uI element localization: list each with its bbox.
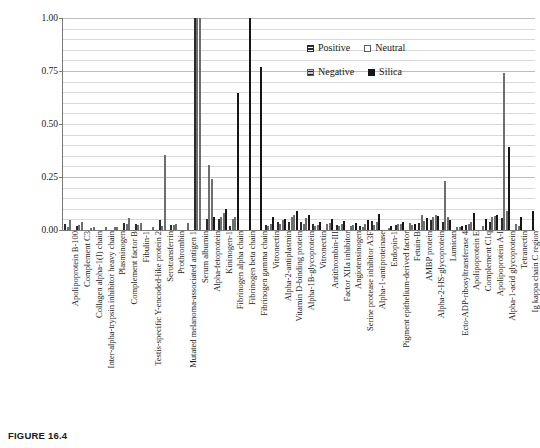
x-axis-category-label: Tetranectin (520, 231, 529, 269)
bar-group (418, 18, 427, 230)
bar-group (88, 18, 97, 230)
bar-group (277, 18, 286, 230)
x-axis-category-label: Vitamin D-binding protein (295, 231, 304, 321)
plot-area (62, 18, 535, 230)
y-axis-tick-label: 1.00 (24, 13, 58, 23)
bar-negative (164, 155, 166, 230)
bar-silica (496, 215, 498, 230)
bar-silica (426, 218, 428, 230)
bar-group (241, 18, 250, 230)
bar-silica (367, 220, 369, 230)
x-axis-category-labels: Apolipoprotein B-100Complement C3Collage… (62, 231, 534, 411)
bar-group (477, 18, 486, 230)
legend-label-negative: Negative (318, 66, 354, 78)
legend-entry-negative: Negative (307, 66, 354, 78)
bar-silica (308, 215, 310, 230)
bar-silica (331, 219, 333, 230)
silica-swatch-icon (368, 69, 375, 76)
bar-silica (402, 222, 404, 230)
x-axis-category-label: Fibrinogen alpha chain (236, 231, 245, 309)
figure-16-4: Relative amount 0.000.250.500.751.00 Pos… (0, 0, 540, 448)
gridline-major (63, 18, 535, 19)
gridline-minor (63, 92, 535, 93)
bar-group (489, 18, 498, 230)
legend-row: PositiveNeutral (307, 42, 419, 54)
x-axis-category-label: Lumican (449, 231, 458, 261)
x-axis-category-label: Antithrombin-III (331, 231, 340, 288)
negative-swatch-icon (307, 69, 314, 76)
x-axis-category-label: Alpha-fetoprotein (213, 231, 222, 292)
gridline-minor (63, 219, 535, 220)
x-axis-category-label: Vitronectin (319, 231, 328, 269)
bar-group (170, 18, 179, 230)
gridline-minor (63, 188, 535, 189)
legend-entry-neutral: Neutral (364, 42, 405, 54)
legend-entry-silica: Silica (368, 66, 402, 78)
bar-negative (128, 218, 130, 230)
x-axis-category-label: Serotransferrin (166, 231, 175, 282)
bar-group (123, 18, 132, 230)
bar-group (229, 18, 238, 230)
gridline-minor (63, 50, 535, 51)
bar-group (64, 18, 73, 230)
y-axis-tick-mark (59, 177, 63, 178)
x-axis-category-label: Kininogen-1 (225, 231, 234, 274)
bar-group (206, 18, 215, 230)
x-axis-category-label: Angiotensinogen (354, 231, 363, 289)
x-axis-category-label: Complement factor B (130, 231, 139, 305)
bar-group (513, 18, 522, 230)
y-axis-tick-label: 0.00 (24, 225, 58, 235)
bar-group (194, 18, 203, 230)
bar-group (253, 18, 262, 230)
x-axis-category-label: Fetuin-B (413, 231, 422, 261)
gridline-minor (63, 166, 535, 167)
bar-silica (284, 219, 286, 230)
bar-group (182, 18, 191, 230)
bar-neutral (503, 73, 505, 230)
gridline-minor (63, 103, 535, 104)
bar-group (159, 18, 168, 230)
bar-negative (69, 220, 71, 230)
bar-silica (343, 221, 345, 230)
x-axis-category-label: Ig kappa chain C region (531, 231, 540, 312)
legend-label-silica: Silica (379, 66, 402, 78)
y-axis-tick-labels: 0.000.250.500.751.00 (20, 0, 58, 448)
x-axis-category-label: Alpha-2-antiplasmin (284, 231, 293, 301)
bar-silica (319, 222, 321, 230)
legend-label-neutral: Neutral (375, 42, 405, 54)
gridline-minor (63, 113, 535, 114)
x-axis-category-label: Apolipoprotein B-100 (71, 231, 80, 306)
bar-silica (272, 217, 274, 230)
x-axis-category-label: Testis-specific Y-encoded-like protein 2 (154, 231, 163, 366)
neutral-swatch-icon (364, 45, 371, 52)
x-axis-category-label: Alpha-1-acid glycoprotein (508, 231, 517, 321)
x-axis-category-label: Serine protease inhibitor A3F (366, 231, 375, 331)
bar-group (465, 18, 474, 230)
x-axis-category-label: Endopin-1 (390, 231, 399, 267)
bar-silica (355, 223, 357, 230)
bar-group (430, 18, 439, 230)
x-axis-category-label: Ecto-ADP-ribosyltransferase 4 (461, 231, 470, 336)
x-axis-category-label: Complement C1q (484, 231, 493, 291)
legend-row: NegativeSilica (307, 66, 419, 78)
bar-silica (296, 211, 298, 230)
bar-group (265, 18, 274, 230)
gridline-minor (63, 156, 535, 157)
gridline-minor (63, 145, 535, 146)
bar-group (135, 18, 144, 230)
bar-group (442, 18, 451, 230)
x-axis-category-label: Alpha-1B-glycoprotein (307, 231, 316, 310)
positive-swatch-icon (307, 45, 314, 52)
bar-negative (81, 222, 83, 230)
bar-silica (249, 18, 251, 230)
y-axis-tick-label: 0.75 (24, 66, 58, 76)
x-axis-category-label: Alpha-2-HS-glycoprotein (437, 231, 446, 318)
x-axis-category-label: Apolipoprotein A-I (496, 231, 505, 296)
x-axis-category-label: Factor XIIa inhibitor (343, 231, 352, 302)
x-axis-category-label: Alpha-1-antiproteinase (378, 231, 387, 309)
gridline-minor (63, 39, 535, 40)
bar-negative (187, 223, 189, 230)
gridline-minor (63, 198, 535, 199)
bar-silica (508, 147, 510, 230)
legend-entry-positive: Positive (307, 42, 350, 54)
